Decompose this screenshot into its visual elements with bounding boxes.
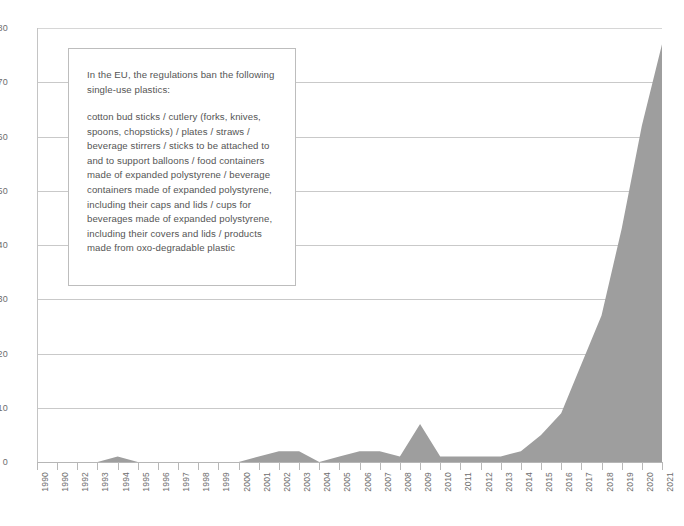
x-tick-label-1992: 1992 bbox=[81, 472, 90, 492]
x-tick-label-1990: 1990 bbox=[41, 472, 50, 492]
y-tick-label-50: 50 bbox=[0, 186, 8, 195]
x-tick-2005 bbox=[339, 462, 340, 470]
x-tick-2017 bbox=[581, 462, 582, 470]
x-tick-label-2013: 2013 bbox=[505, 472, 514, 492]
x-tick-label-1998: 1998 bbox=[202, 472, 211, 492]
x-tick-label-2019: 2019 bbox=[626, 472, 635, 492]
x-tick-1996 bbox=[158, 462, 159, 470]
x-tick-1990 bbox=[37, 462, 38, 470]
x-tick-label-2012: 2012 bbox=[485, 472, 494, 492]
x-tick-2001 bbox=[259, 462, 260, 470]
y-axis-spine bbox=[37, 28, 38, 462]
annotation-body-text: cotton bud sticks / cutlery (forks, kniv… bbox=[87, 110, 278, 256]
x-tick-2008 bbox=[400, 462, 401, 470]
x-tick-1992 bbox=[77, 462, 78, 470]
x-tick-2010 bbox=[440, 462, 441, 470]
x-tick-label-1995: 1995 bbox=[142, 472, 151, 492]
x-tick-1991 bbox=[57, 462, 58, 470]
x-tick-label-2015: 2015 bbox=[545, 472, 554, 492]
x-tick-label-1994: 1994 bbox=[122, 472, 131, 492]
y-tick-label-10: 10 bbox=[0, 403, 8, 412]
y-tick-label-70: 70 bbox=[0, 78, 8, 87]
x-tick-2016 bbox=[561, 462, 562, 470]
x-tick-label-2005: 2005 bbox=[343, 472, 352, 492]
x-tick-1997 bbox=[178, 462, 179, 470]
x-axis-labels: 1990199019921993199419951996199719981999… bbox=[37, 472, 662, 526]
x-tick-1995 bbox=[138, 462, 139, 470]
x-tick-label-2010: 2010 bbox=[444, 472, 453, 492]
x-tick-label-1999: 1999 bbox=[222, 472, 231, 492]
x-tick-label-1993: 1993 bbox=[101, 472, 110, 492]
x-tick-2014 bbox=[521, 462, 522, 470]
x-tick-label-2018: 2018 bbox=[606, 472, 615, 492]
x-tick-2013 bbox=[501, 462, 502, 470]
x-tick-2006 bbox=[360, 462, 361, 470]
y-tick-label-20: 20 bbox=[0, 349, 8, 358]
x-tick-label-2000: 2000 bbox=[243, 472, 252, 492]
y-tick-label-60: 60 bbox=[0, 132, 8, 141]
x-tick-label-2020: 2020 bbox=[646, 472, 655, 492]
x-tick-label-1991: 1990 bbox=[61, 472, 70, 492]
y-tick-label-40: 40 bbox=[0, 241, 8, 250]
y-tick-label-80: 80 bbox=[0, 24, 8, 33]
x-tick-1994 bbox=[118, 462, 119, 470]
x-tick-label-2003: 2003 bbox=[303, 472, 312, 492]
x-tick-2021 bbox=[662, 462, 663, 470]
x-tick-label-2008: 2008 bbox=[404, 472, 413, 492]
x-tick-1993 bbox=[97, 462, 98, 470]
y-tick-label-30: 30 bbox=[0, 295, 8, 304]
y-axis: 01020304050607080 bbox=[0, 0, 37, 526]
annotation-callout: In the EU, the regulations ban the follo… bbox=[68, 48, 296, 286]
x-tick-2003 bbox=[299, 462, 300, 470]
x-tick-label-2007: 2007 bbox=[384, 472, 393, 492]
x-tick-2011 bbox=[460, 462, 461, 470]
x-tick-1998 bbox=[198, 462, 199, 470]
x-tick-2009 bbox=[420, 462, 421, 470]
x-tick-label-2006: 2006 bbox=[364, 472, 373, 492]
x-tick-2015 bbox=[541, 462, 542, 470]
x-tick-2020 bbox=[642, 462, 643, 470]
x-tick-2004 bbox=[319, 462, 320, 470]
x-tick-label-2002: 2002 bbox=[283, 472, 292, 492]
x-tick-label-2004: 2004 bbox=[323, 472, 332, 492]
x-tick-label-2016: 2016 bbox=[565, 472, 574, 492]
x-tick-label-2011: 2011 bbox=[464, 472, 473, 491]
y-tick-label-0: 0 bbox=[3, 458, 8, 467]
area-chart: 01020304050607080 1990199019921993199419… bbox=[0, 0, 684, 526]
x-tick-1999 bbox=[218, 462, 219, 470]
x-tick-label-2001: 2001 bbox=[263, 472, 272, 492]
x-tick-label-2017: 2017 bbox=[585, 472, 594, 492]
x-tick-2000 bbox=[239, 462, 240, 470]
x-axis-ticks bbox=[37, 462, 662, 471]
x-tick-2007 bbox=[380, 462, 381, 470]
x-tick-2012 bbox=[481, 462, 482, 470]
x-tick-label-2014: 2014 bbox=[525, 472, 534, 492]
annotation-lead-text: In the EU, the regulations ban the follo… bbox=[87, 68, 278, 97]
x-tick-label-1997: 1997 bbox=[182, 472, 191, 492]
x-tick-2002 bbox=[279, 462, 280, 470]
x-tick-label-2009: 2009 bbox=[424, 472, 433, 492]
x-tick-label-1996: 1996 bbox=[162, 472, 171, 492]
x-tick-2018 bbox=[602, 462, 603, 470]
x-tick-label-2021: 2021 bbox=[666, 472, 675, 492]
x-tick-2019 bbox=[622, 462, 623, 470]
